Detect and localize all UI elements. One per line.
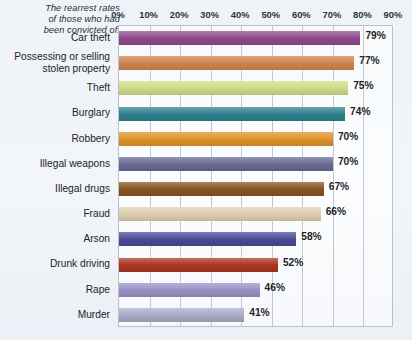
category-label: Murder [0, 309, 110, 320]
bar-row: 46% [119, 278, 392, 303]
bar-highlight [119, 182, 324, 189]
bar-value-label: 41% [249, 307, 269, 318]
bar-row: 70% [119, 152, 392, 177]
bar-row: 79% [119, 26, 392, 51]
bar-highlight [119, 258, 278, 265]
bar-value-label: 75% [353, 80, 373, 91]
bar-row: 75% [119, 76, 392, 101]
category-label: Possessing or selling stolen property [0, 51, 110, 74]
bar[interactable] [119, 107, 345, 121]
category-label: Theft [0, 82, 110, 93]
bar-row: 58% [119, 227, 392, 252]
bar-row: 67% [119, 177, 392, 202]
x-tick-label: 80% [353, 9, 372, 20]
x-tick-label: 40% [231, 9, 250, 20]
category-label: Illegal weapons [0, 158, 110, 169]
x-tick-label: 30% [200, 9, 219, 20]
bar[interactable] [119, 56, 354, 70]
bar-value-label: 74% [350, 106, 370, 117]
bar-row: 41% [119, 303, 392, 328]
bar-highlight [119, 132, 333, 139]
bar[interactable] [119, 283, 260, 297]
category-label: Rape [0, 284, 110, 295]
x-tick-label: 0% [111, 9, 125, 20]
bar-row: 70% [119, 127, 392, 152]
bar-value-label: 67% [329, 181, 349, 192]
category-label: Burglary [0, 107, 110, 118]
bar-highlight [119, 283, 260, 290]
category-label: Car theft [0, 32, 110, 43]
category-label: Arson [0, 233, 110, 244]
bar-highlight [119, 81, 348, 88]
bar[interactable] [119, 207, 321, 221]
bar-highlight [119, 157, 333, 164]
category-label: Fraud [0, 208, 110, 219]
x-tick-label: 60% [292, 9, 311, 20]
bar-highlight [119, 207, 321, 214]
bar-row: 52% [119, 253, 392, 278]
bar[interactable] [119, 132, 333, 146]
x-axis-tick-labels: 0%10%20%30%40%50%60%70%80%90% [118, 9, 393, 23]
bar[interactable] [119, 182, 324, 196]
bar[interactable] [119, 232, 296, 246]
bar-value-label: 58% [301, 231, 321, 242]
bar-value-label: 66% [326, 206, 346, 217]
bar-row: 77% [119, 51, 392, 76]
bar-highlight [119, 107, 345, 114]
bar-value-label: 70% [338, 156, 358, 167]
category-axis-labels: Car theftPossessing or selling stolen pr… [0, 25, 114, 327]
x-tick-label: 70% [322, 9, 341, 20]
x-tick-label: 90% [384, 9, 403, 20]
category-label: Illegal drugs [0, 183, 110, 194]
category-label: Robbery [0, 133, 110, 144]
bar-value-label: 77% [359, 55, 379, 66]
chart-title-line: of those who had [10, 14, 120, 25]
category-label: Drunk driving [0, 258, 110, 269]
bar[interactable] [119, 81, 348, 95]
bar-value-label: 46% [265, 282, 285, 293]
bar-highlight [119, 56, 354, 63]
bar-value-label: 79% [365, 30, 385, 41]
chart-title-line: The rearrest rates [10, 3, 120, 14]
x-tick-label: 10% [139, 9, 158, 20]
bar[interactable] [119, 308, 244, 322]
bar-highlight [119, 232, 296, 239]
bar-value-label: 70% [338, 131, 358, 142]
bar-highlight [119, 31, 360, 38]
bar-row: 74% [119, 102, 392, 127]
bar[interactable] [119, 157, 333, 171]
bar-highlight [119, 308, 244, 315]
bar-value-label: 52% [283, 257, 303, 268]
bar-chart: The rearrest ratesof those who hadbeen c… [0, 0, 412, 340]
x-tick-label: 20% [170, 9, 189, 20]
x-tick-label: 50% [261, 9, 280, 20]
bar[interactable] [119, 31, 360, 45]
bar-row: 66% [119, 202, 392, 227]
plot-area: 79%77%75%74%70%70%67%66%58%52%46%41% [118, 25, 393, 327]
bar[interactable] [119, 258, 278, 272]
